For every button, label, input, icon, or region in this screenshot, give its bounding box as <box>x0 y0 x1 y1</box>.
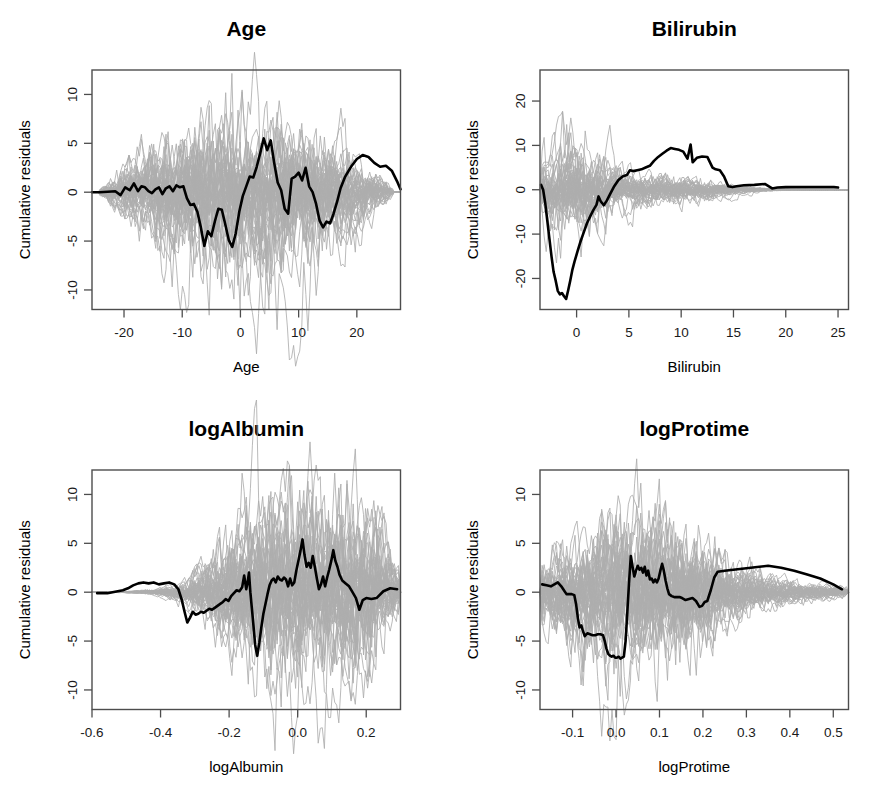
x-tick-label: 20 <box>778 325 793 340</box>
chart-logprotime: logProtime-0.10.00.10.20.30.40.5-10-5051… <box>448 400 895 799</box>
panel-title: Bilirubin <box>651 17 736 40</box>
x-tick-label: 20 <box>349 325 364 340</box>
residual-plot-figure: Age-20-1001020-10-50510AgeCumulative res… <box>0 0 895 799</box>
y-tick-label: 20 <box>512 94 527 109</box>
x-tick-label: -20 <box>114 325 134 340</box>
x-tick-label: 0.4 <box>780 724 799 739</box>
x-tick-label: -0.2 <box>217 724 240 739</box>
x-tick-label: 0.0 <box>288 724 307 739</box>
y-tick-label: 0 <box>512 588 527 596</box>
x-tick-label: -0.4 <box>149 724 173 739</box>
y-tick-label: 10 <box>512 486 527 501</box>
y-tick-label: 0 <box>512 186 527 194</box>
x-tick-label: 5 <box>625 325 633 340</box>
y-axis: -10-50510 <box>65 486 92 699</box>
y-axis-title: Cumulative residuals <box>464 120 481 259</box>
y-tick-label: -20 <box>512 269 527 289</box>
y-tick-label: 10 <box>65 486 80 501</box>
x-tick-label: -10 <box>172 325 192 340</box>
y-tick-label: -10 <box>65 280 80 300</box>
y-tick-label: -5 <box>65 635 80 647</box>
y-axis: -20-1001020 <box>512 94 539 289</box>
panel-age: Age-20-1001020-10-50510AgeCumulative res… <box>0 0 448 400</box>
x-axis-title: Age <box>233 358 260 375</box>
y-tick-label: 0 <box>65 588 80 596</box>
x-tick-label: 0.2 <box>693 724 712 739</box>
x-tick-label: 25 <box>830 325 845 340</box>
panel-title: logProtime <box>639 417 749 440</box>
x-tick-label: 0.0 <box>606 724 625 739</box>
x-axis-title: logProtime <box>658 757 730 774</box>
chart-age: Age-20-1001020-10-50510AgeCumulative res… <box>0 0 448 400</box>
x-axis-title: Bilirubin <box>667 358 720 375</box>
chart-logalbumin: logAlbumin-0.6-0.4-0.20.00.2-10-50510log… <box>0 400 448 799</box>
y-tick-label: 5 <box>512 539 527 547</box>
panel-title: logAlbumin <box>189 417 304 440</box>
x-tick-label: 0.5 <box>823 724 842 739</box>
simulated-paths <box>92 52 401 366</box>
y-tick-label: 10 <box>65 87 80 102</box>
y-tick-label: 10 <box>512 138 527 153</box>
y-tick-label: 0 <box>65 188 80 196</box>
panel-bilirubin: Bilirubin0510152025-20-1001020BilirubinC… <box>448 0 895 400</box>
x-axis: -0.6-0.4-0.20.00.2 <box>80 709 375 739</box>
simulated-path <box>540 112 849 236</box>
x-tick-label: 0 <box>572 325 580 340</box>
x-axis: 0510152025 <box>572 310 845 340</box>
x-tick-label: 15 <box>725 325 740 340</box>
x-tick-label: 0.1 <box>650 724 669 739</box>
panel-logprotime: logProtime-0.10.00.10.20.30.40.5-10-5051… <box>448 400 895 799</box>
y-tick-label: -10 <box>512 224 527 244</box>
y-tick-label: -10 <box>512 680 527 700</box>
y-tick-label: -10 <box>65 680 80 700</box>
x-tick-label: -0.1 <box>560 724 583 739</box>
x-tick-label: -0.6 <box>80 724 103 739</box>
panel-title: Age <box>226 17 266 40</box>
y-tick-label: 5 <box>65 140 80 148</box>
x-tick-label: 10 <box>673 325 688 340</box>
y-axis: -10-50510 <box>512 486 539 699</box>
x-axis: -20-1001020 <box>114 310 364 340</box>
x-tick-label: 0 <box>237 325 245 340</box>
y-axis-title: Cumulative residuals <box>16 520 33 659</box>
y-axis-title: Cumulative residuals <box>16 120 33 259</box>
x-tick-label: 10 <box>291 325 306 340</box>
x-tick-label: 0.2 <box>357 724 376 739</box>
simulated-paths <box>92 400 401 754</box>
x-tick-label: 0.3 <box>737 724 756 739</box>
chart-bilirubin: Bilirubin0510152025-20-1001020BilirubinC… <box>448 0 895 400</box>
y-tick-label: 5 <box>65 539 80 547</box>
y-axis: -10-50510 <box>65 87 92 300</box>
y-tick-label: -5 <box>512 635 527 647</box>
x-axis-title: logAlbumin <box>209 757 283 774</box>
panel-logalbumin: logAlbumin-0.6-0.4-0.20.00.2-10-50510log… <box>0 400 448 799</box>
y-tick-label: -5 <box>65 235 80 247</box>
y-axis-title: Cumulative residuals <box>464 520 481 659</box>
